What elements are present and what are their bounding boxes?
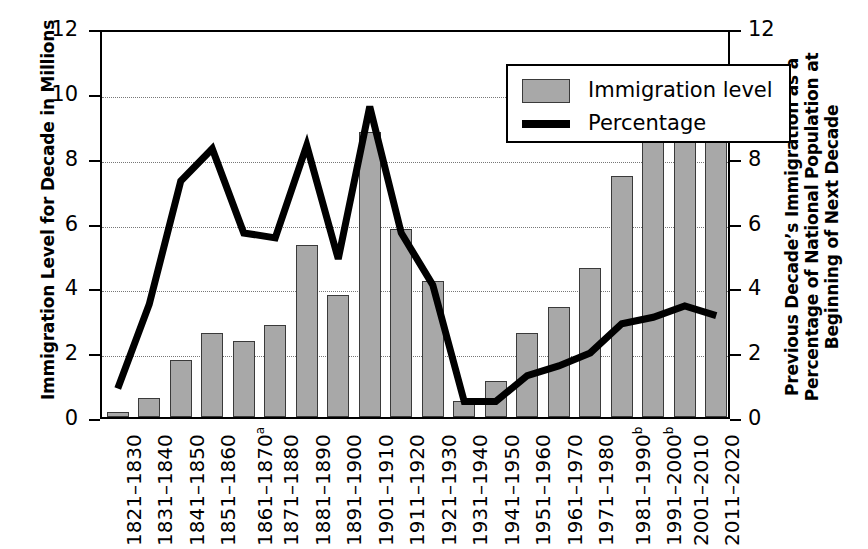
legend-label-immigration-level: Immigration level xyxy=(588,80,773,101)
axis-tick-label: 4 xyxy=(38,278,78,299)
axis-tick-label: 12 xyxy=(748,19,788,40)
y-axis-right-title: Previous Decade’s Immigration as a Perce… xyxy=(782,27,842,427)
gridline xyxy=(102,227,728,228)
bar xyxy=(201,333,223,417)
axis-tick xyxy=(89,354,100,356)
axis-tick xyxy=(89,225,100,227)
bar xyxy=(485,381,507,417)
bar xyxy=(548,307,570,417)
legend-item-immigration-level: Immigration level xyxy=(522,74,789,107)
gridline xyxy=(102,356,728,357)
bar xyxy=(516,333,538,417)
bar xyxy=(107,412,129,417)
axis-tick xyxy=(730,289,741,291)
axis-tick xyxy=(89,160,100,162)
gridline xyxy=(102,162,728,163)
bar xyxy=(579,268,601,417)
axis-tick xyxy=(89,30,100,32)
bar xyxy=(642,120,664,417)
x-axis-label: 1881–1890 xyxy=(313,434,333,546)
axis-tick xyxy=(730,419,741,421)
x-axis-label: 1891–1900 xyxy=(344,434,364,546)
line-swatch-icon xyxy=(522,120,570,128)
axis-tick-label: 2 xyxy=(748,343,788,364)
axis-tick-label: 6 xyxy=(38,214,78,235)
x-axis-label: 1841–1850 xyxy=(187,434,207,546)
x-axis-labels: 1821–18301831–18401841–18501851–18601861… xyxy=(100,424,730,549)
axis-tick xyxy=(89,419,100,421)
axis-tick xyxy=(730,30,741,32)
x-axis-label: 1981–1990b xyxy=(628,427,653,546)
x-axis-label: 1861–1870a xyxy=(250,427,275,546)
axis-tick-label: 12 xyxy=(38,19,78,40)
footnote-marker: b xyxy=(631,427,645,435)
legend: Immigration level Percentage xyxy=(506,64,791,143)
axis-tick-label: 0 xyxy=(748,408,788,429)
bar xyxy=(264,325,286,417)
axis-tick-label: 6 xyxy=(748,214,788,235)
bar xyxy=(170,360,192,417)
x-axis-label: 1821–1830 xyxy=(124,434,144,546)
bar xyxy=(359,132,381,417)
axis-tick xyxy=(89,289,100,291)
bar xyxy=(390,229,412,417)
bar-swatch-icon xyxy=(522,79,570,103)
x-axis-label: 1831–1840 xyxy=(155,434,175,546)
axis-tick-label: 0 xyxy=(38,408,78,429)
x-axis-label: 1931–1940 xyxy=(470,434,490,546)
x-axis-label: 2011–2020 xyxy=(722,434,742,546)
axis-tick-label: 8 xyxy=(748,149,788,170)
footnote-marker: b xyxy=(662,427,676,435)
x-axis-label: 1911–1920 xyxy=(407,434,427,546)
legend-label-percentage: Percentage xyxy=(588,113,706,134)
x-axis-label: 2001–2010 xyxy=(691,434,711,546)
x-axis-label: 1901–1910 xyxy=(376,434,396,546)
gridline xyxy=(102,291,728,292)
axis-tick-label: 4 xyxy=(748,278,788,299)
x-axis-label: 1951–1960 xyxy=(533,434,553,546)
bar xyxy=(422,281,444,417)
x-axis-label: 1991–2000b xyxy=(659,427,684,546)
axis-tick xyxy=(730,160,741,162)
axis-tick xyxy=(730,225,741,227)
x-axis-label: 1971–1980 xyxy=(596,434,616,546)
footnote-marker: a xyxy=(253,427,267,434)
axis-tick xyxy=(730,354,741,356)
legend-item-percentage: Percentage xyxy=(522,107,789,140)
axis-tick-label: 8 xyxy=(38,149,78,170)
axis-tick-label: 10 xyxy=(38,84,78,105)
bar xyxy=(233,341,255,417)
plot-area: Immigration level Percentage xyxy=(100,30,730,419)
immigration-chart: Immigration Level for Decade in Millions… xyxy=(0,0,868,549)
x-axis-label: 1941–1950 xyxy=(502,434,522,546)
x-axis-label: 1871–1880 xyxy=(281,434,301,546)
x-axis-label: 1921–1930 xyxy=(439,434,459,546)
bar xyxy=(138,398,160,417)
axis-tick-label: 2 xyxy=(38,343,78,364)
x-axis-label: 1961–1970 xyxy=(565,434,585,546)
axis-tick xyxy=(89,95,100,97)
x-axis-label: 1851–1860 xyxy=(218,434,238,546)
bar xyxy=(327,295,349,417)
bar xyxy=(453,401,475,417)
bar xyxy=(296,245,318,417)
bar xyxy=(611,176,633,418)
